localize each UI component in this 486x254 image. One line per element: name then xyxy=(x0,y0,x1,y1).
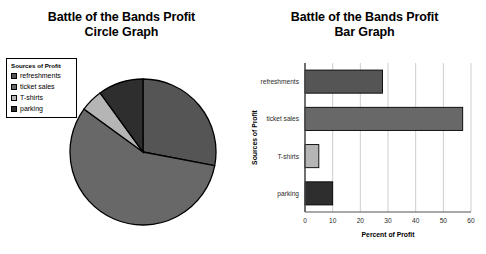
circle-graph-title-line2: Circle Graph xyxy=(0,25,243,40)
bar-ticket-sales xyxy=(305,107,463,130)
xtick-label-10: 10 xyxy=(329,217,337,224)
ytick-label-parking: parking xyxy=(277,190,299,198)
bar-tshirts xyxy=(305,145,319,168)
ytick-label-refreshments: refreshments xyxy=(261,78,300,85)
bar-svg: 0102030405060 refreshmentsticket salesT-… xyxy=(243,0,486,254)
legend-item-tshirts: T-shirts xyxy=(11,94,73,102)
circle-graph-title-line1: Battle of the Bands Profit xyxy=(48,10,195,24)
ytick-label-ticket-sales: ticket sales xyxy=(266,115,299,122)
xtick-label-40: 40 xyxy=(412,217,420,224)
bar-chart: 0102030405060 refreshmentsticket salesT-… xyxy=(243,0,486,254)
figure-root: Battle of the Bands Profit Circle Graph … xyxy=(0,0,486,254)
bar-parking xyxy=(305,182,333,205)
xtick-label-50: 50 xyxy=(440,217,448,224)
circle-graph-panel: Battle of the Bands Profit Circle Graph … xyxy=(0,0,243,254)
legend-swatch-ticket-sales xyxy=(11,84,17,90)
legend-label-ticket-sales: ticket sales xyxy=(20,83,55,91)
pie-legend-title: Sources of Profit xyxy=(11,62,73,69)
pie-svg xyxy=(68,77,218,227)
legend-item-ticket-sales: ticket sales xyxy=(11,83,73,91)
bar-bars xyxy=(305,70,463,205)
xtick-label-0: 0 xyxy=(303,217,307,224)
ytick-label-tshirts: T-shirts xyxy=(277,153,299,160)
pie-legend: Sources of Profit refreshments ticket sa… xyxy=(6,58,77,118)
x-axis-title: Percent of Profit xyxy=(362,231,416,238)
legend-item-parking: parking xyxy=(11,105,73,113)
legend-label-parking: parking xyxy=(20,105,43,113)
pie-slice-refreshments xyxy=(143,79,216,166)
legend-swatch-refreshments xyxy=(11,73,17,79)
xtick-label-20: 20 xyxy=(357,217,365,224)
bar-ytick-labels: refreshmentsticket salesT-shirtsparking xyxy=(261,78,300,198)
legend-label-tshirts: T-shirts xyxy=(20,94,43,102)
y-axis-title: Sources of Profit xyxy=(251,109,258,164)
legend-swatch-tshirts xyxy=(11,95,17,101)
legend-item-refreshments: refreshments xyxy=(11,72,73,80)
bar-refreshments xyxy=(305,70,382,93)
bar-graph-panel: Battle of the Bands Profit Bar Graph 010… xyxy=(243,0,486,254)
xtick-label-30: 30 xyxy=(384,217,392,224)
legend-label-refreshments: refreshments xyxy=(20,72,61,80)
circle-graph-title: Battle of the Bands Profit Circle Graph xyxy=(0,10,243,40)
xtick-label-60: 60 xyxy=(467,217,475,224)
bar-xtick-labels: 0102030405060 xyxy=(303,217,475,224)
pie-chart xyxy=(68,77,218,227)
legend-swatch-parking xyxy=(11,106,17,112)
